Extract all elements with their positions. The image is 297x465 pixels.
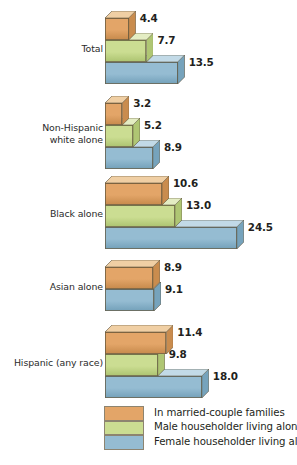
legend-swatch	[104, 406, 144, 421]
chart-bar	[105, 325, 173, 347]
bar-value-label: 8.9	[164, 261, 182, 273]
bar-front-face	[105, 125, 133, 147]
legend-swatch	[104, 435, 144, 450]
bar-front-face	[105, 267, 153, 289]
bar-value-label: 9.8	[169, 348, 187, 360]
category-label: Black alone	[0, 208, 103, 219]
bar-top-face	[105, 260, 160, 267]
bar-value-label: 7.7	[157, 34, 175, 46]
bar-front-face	[105, 18, 129, 40]
bar-front-face	[105, 227, 237, 249]
chart-bar	[105, 260, 160, 282]
bar-value-label: 18.0	[213, 370, 238, 382]
category-label: Total	[0, 43, 103, 54]
bar-value-label: 13.5	[189, 56, 214, 68]
bar-value-label: 9.1	[165, 283, 183, 295]
bar-value-label: 8.9	[164, 141, 182, 153]
poverty-rate-bar-chart: Total4.47.713.5Non-Hispanic white alone3…	[0, 0, 297, 465]
chart-bar	[105, 11, 136, 33]
bar-value-label: 5.2	[144, 119, 162, 131]
bar-front-face	[105, 147, 153, 169]
category-label: Non-Hispanic white alone	[0, 122, 103, 145]
bar-value-label: 13.0	[186, 199, 211, 211]
bar-value-label: 11.4	[177, 326, 202, 338]
chart-bar	[105, 176, 169, 198]
chart-legend: In married-couple familiesMale household…	[104, 406, 294, 450]
bar-front-face	[105, 332, 166, 354]
legend-item: Male householder living alone	[104, 421, 294, 436]
bar-front-face	[105, 62, 178, 84]
bar-value-label: 4.4	[140, 12, 158, 24]
chart-bar	[105, 96, 129, 118]
bar-value-label: 3.2	[133, 97, 151, 109]
category-label: Hispanic (any race)	[0, 357, 103, 368]
legend-label: Male householder living alone	[154, 420, 297, 435]
legend-label: In married-couple families	[154, 406, 285, 421]
bar-value-label: 24.5	[248, 221, 273, 233]
legend-item: In married-couple families	[104, 406, 294, 421]
bar-front-face	[105, 289, 154, 311]
legend-swatch	[104, 421, 144, 436]
bar-front-face	[105, 103, 122, 125]
bar-front-face	[105, 376, 202, 398]
bar-value-label: 10.6	[173, 177, 198, 189]
legend-label: Female householder living alone	[154, 435, 297, 450]
bar-front-face	[105, 354, 158, 376]
bar-top-face	[105, 176, 169, 183]
bar-front-face	[105, 183, 162, 205]
legend-item: Female householder living alone	[104, 435, 294, 450]
category-label: Asian alone	[0, 281, 103, 292]
bar-front-face	[105, 40, 146, 62]
bar-front-face	[105, 205, 175, 227]
bar-top-face	[105, 325, 173, 332]
